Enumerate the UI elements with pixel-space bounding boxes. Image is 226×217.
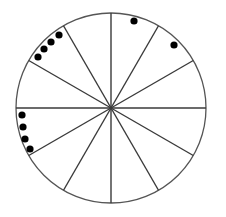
dot-marker [26,145,33,152]
dot-marker [34,53,41,60]
dot-marker [21,135,28,142]
divided-circle-diagram [0,0,226,217]
dot-marker [55,31,62,38]
dot-marker [40,45,47,52]
dot-marker [130,17,137,24]
dot-marker [18,111,25,118]
dot-marker [19,123,26,130]
dot-marker [47,38,54,45]
dot-marker [170,41,177,48]
diagram-canvas [0,0,226,217]
